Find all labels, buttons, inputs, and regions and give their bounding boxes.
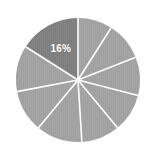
pie-chart: 16% xyxy=(0,0,156,157)
pie-chart-canvas xyxy=(0,0,156,157)
